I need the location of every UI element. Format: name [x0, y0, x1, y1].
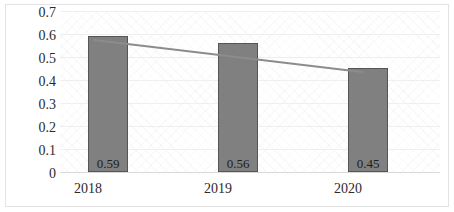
gridline-0.6: [60, 34, 440, 35]
y-axis-tick-0.4: 0.4: [12, 75, 56, 89]
y-axis-tick-labels: 0.7 0.6 0.5 0.4 0.3 0.2 0.1 0: [6, 0, 56, 212]
gridline-0.7: [60, 11, 440, 12]
bar-value-label-2019: 0.56: [218, 157, 258, 170]
x-axis-tick-2019: 2019: [183, 182, 253, 196]
x-axis-baseline: [60, 172, 440, 173]
y-axis-tick-0.1: 0.1: [12, 144, 56, 158]
bar-2019[interactable]: [218, 43, 258, 172]
y-axis-tick-0.5: 0.5: [12, 52, 56, 66]
chart-container: 0.7 0.6 0.5 0.4 0.3 0.2 0.1 0 0.59 0.56 …: [0, 0, 454, 212]
y-axis-tick-0.7: 0.7: [12, 6, 56, 20]
bar-2018[interactable]: [88, 36, 128, 172]
bar-value-label-2018: 0.59: [88, 157, 128, 170]
y-axis-tick-0.3: 0.3: [12, 98, 56, 112]
x-axis-tick-2018: 2018: [53, 182, 123, 196]
bar-value-label-2020: 0.45: [348, 157, 388, 170]
y-axis-tick-0.2: 0.2: [12, 121, 56, 135]
x-axis-tick-2020: 2020: [313, 182, 383, 196]
plot-area: 0.59 0.56 0.45: [60, 11, 440, 173]
y-axis-tick-0: 0: [12, 167, 56, 181]
y-axis-tick-0.6: 0.6: [12, 29, 56, 43]
